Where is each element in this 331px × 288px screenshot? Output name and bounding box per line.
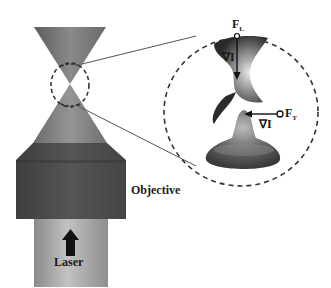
objective-lens-body xyxy=(16,143,126,219)
gradient-label-2: ∇I xyxy=(259,117,272,132)
force-transverse-marker xyxy=(277,111,283,117)
force-longitudinal-label: FL xyxy=(232,17,244,33)
converging-beam-cone xyxy=(34,27,106,84)
diverging-beam-cone xyxy=(33,84,107,143)
connector-line-top xyxy=(82,36,196,64)
optical-tweezers-diagram xyxy=(0,0,331,288)
laser-label: Laser xyxy=(54,255,83,270)
objective-label: Objective xyxy=(131,183,180,198)
intensity-surface-saddle xyxy=(214,36,268,103)
force-transverse-label: FT xyxy=(285,106,297,122)
gradient-label-1: ∇I xyxy=(222,50,235,65)
force-longitudinal-marker xyxy=(235,34,240,39)
